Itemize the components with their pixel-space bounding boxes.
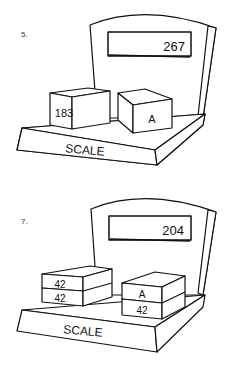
display-value: 267 (163, 39, 185, 54)
left-block-top-value: 42 (54, 279, 66, 290)
scale-problem-5: 267 SCALE 183 A 5. (0, 0, 236, 187)
scale-illustration: 267 SCALE 183 A (0, 0, 236, 187)
scale-problem-7: 204 SCALE 42 42 A 42 7. (0, 187, 236, 374)
right-block-top-value: A (139, 289, 146, 300)
display-value: 204 (162, 223, 184, 238)
right-block-bottom-value: 42 (136, 305, 148, 316)
right-block-value: A (148, 113, 156, 125)
problem-number: 7. (21, 217, 28, 226)
left-block-value: 183 (55, 107, 73, 119)
problem-number: 5. (21, 30, 28, 39)
scale-illustration: 204 SCALE 42 42 A 42 (0, 187, 236, 374)
left-block-bottom-value: 42 (54, 293, 66, 304)
